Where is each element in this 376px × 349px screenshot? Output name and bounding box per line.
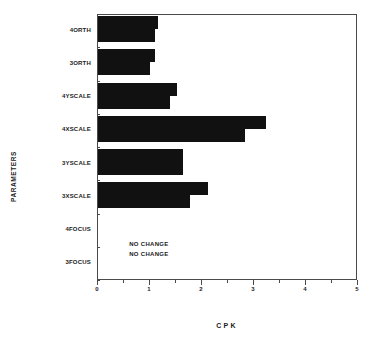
bar-4xscale-a bbox=[98, 116, 266, 129]
bar-4yscale-b bbox=[98, 96, 170, 109]
bar-3xscale-a bbox=[98, 182, 208, 195]
bar-3yscale-a bbox=[98, 149, 183, 162]
x-tick-label-4: 4 bbox=[295, 286, 315, 292]
x-tick-label-5: 5 bbox=[347, 286, 367, 292]
bar-3orth-b bbox=[98, 62, 150, 75]
x-minor-tick-mark bbox=[123, 280, 124, 283]
bar-4orth-b bbox=[98, 29, 155, 42]
x-tick-label-3: 3 bbox=[243, 286, 263, 292]
bar-4orth-a bbox=[98, 16, 158, 29]
y-tick-label-3orth: 3ORTH bbox=[37, 60, 91, 66]
y-tick-mark bbox=[97, 247, 100, 248]
y-tick-label-3xscale: 3XSCALE bbox=[37, 193, 91, 199]
x-minor-tick-mark bbox=[331, 280, 332, 283]
x-tick-mark bbox=[305, 280, 306, 285]
y-tick-label-3focus: 3FOCUS bbox=[37, 259, 91, 265]
bar-4xscale-b bbox=[98, 129, 245, 142]
y-axis-title: PARAMETERS bbox=[6, 128, 20, 224]
y-tick-mark bbox=[97, 47, 100, 48]
y-tick-mark bbox=[97, 114, 100, 115]
y-tick-label-4orth: 4ORTH bbox=[37, 27, 91, 33]
bar-3xscale-b bbox=[98, 195, 190, 208]
y-tick-label-4xscale: 4XSCALE bbox=[37, 126, 91, 132]
x-tick-mark bbox=[357, 280, 358, 285]
chart-figure: PARAMETERS 4ORTH3ORTH4YSCALE4XSCALE3YSCA… bbox=[0, 0, 376, 349]
bar-3yscale-b bbox=[98, 162, 183, 175]
y-tick-label-3yscale: 3YSCALE bbox=[37, 160, 91, 166]
x-minor-tick-mark bbox=[279, 280, 280, 283]
annotation-no-change-2: NO CHANGE bbox=[129, 251, 168, 257]
y-tick-mark bbox=[97, 180, 100, 181]
annotation-no-change-1: NO CHANGE bbox=[129, 241, 168, 247]
y-tick-label-4yscale: 4YSCALE bbox=[37, 93, 91, 99]
x-tick-label-1: 1 bbox=[139, 286, 159, 292]
y-tick-label-4focus: 4FOCUS bbox=[37, 226, 91, 232]
x-tick-mark bbox=[253, 280, 254, 285]
x-axis-title: CPK bbox=[97, 322, 357, 329]
x-minor-tick-mark bbox=[227, 280, 228, 283]
y-tick-mark bbox=[97, 214, 100, 215]
x-minor-tick-mark bbox=[175, 280, 176, 283]
x-tick-mark bbox=[201, 280, 202, 285]
x-tick-mark bbox=[97, 280, 98, 285]
bar-3orth-a bbox=[98, 49, 155, 62]
y-tick-mark bbox=[97, 81, 100, 82]
x-tick-mark bbox=[149, 280, 150, 285]
y-tick-mark bbox=[97, 147, 100, 148]
bar-4yscale-a bbox=[98, 83, 177, 96]
x-tick-label-2: 2 bbox=[191, 286, 211, 292]
x-tick-label-0: 0 bbox=[87, 286, 107, 292]
